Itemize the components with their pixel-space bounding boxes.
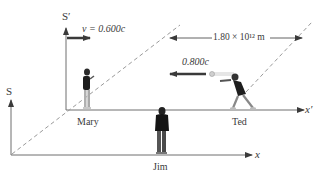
ted-label: Ted [232,117,247,127]
distance-label: 1.80 × 10¹² m [213,33,265,43]
frame-s-prime-label: S′ [62,11,71,22]
jim-label: Jim [153,162,167,172]
ted-figure [220,74,256,111]
projectile-trail [212,72,234,76]
projectile-velocity-label: 0.800c [182,57,209,67]
projectile-ball [210,72,215,77]
x-axis-label: x [255,149,260,160]
mary-figure [83,69,94,110]
frame-velocity-label: v = 0.600c [82,24,125,34]
mary-label: Mary [77,117,99,127]
relativity-diagram [0,0,324,176]
frame-s-label: S [6,86,12,97]
jim-figure [155,107,169,154]
x-prime-axis-label: x′ [305,104,312,115]
dashed-line-mary [12,25,180,154]
